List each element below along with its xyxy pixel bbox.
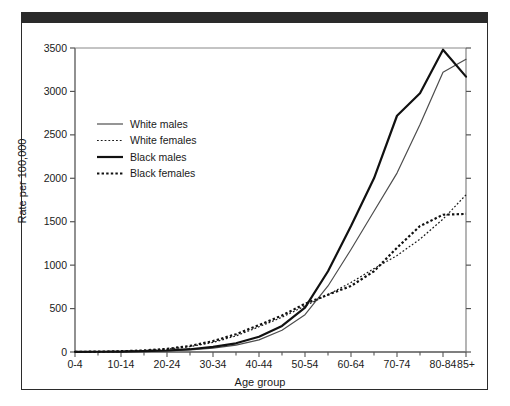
x-axis-label: Age group <box>180 376 340 388</box>
legend-label-white-males: White males <box>130 118 188 130</box>
figure-container: 05001000150020002500300035000-410-1420-2… <box>0 0 510 406</box>
x-tick-label-85+: 85+ <box>457 358 475 370</box>
y-axis-label: Rate per 100,000 <box>16 121 28 241</box>
x-tick-label-60-64: 60-64 <box>338 358 365 370</box>
legend-label-white-females: White females <box>130 134 197 146</box>
y-tick-label-3500: 3500 <box>44 42 68 54</box>
x-tick-label-80-84: 80-84 <box>430 358 457 370</box>
x-tick-label-70-74: 70-74 <box>384 358 411 370</box>
x-tick-label-40-44: 40-44 <box>246 358 273 370</box>
series-line-black-males <box>75 50 466 352</box>
y-tick-label-3000: 3000 <box>44 85 68 97</box>
legend-label-black-males: Black males <box>130 151 187 163</box>
x-tick-label-50-54: 50-54 <box>292 358 319 370</box>
y-tick-label-1000: 1000 <box>44 259 68 271</box>
series-line-white-females <box>75 195 466 352</box>
x-tick-label-30-34: 30-34 <box>200 358 227 370</box>
y-tick-label-2000: 2000 <box>44 172 68 184</box>
series-line-white-males <box>75 59 466 352</box>
y-tick-label-0: 0 <box>61 346 67 358</box>
y-tick-label-1500: 1500 <box>44 215 68 227</box>
legend-label-black-females: Black females <box>130 167 195 179</box>
x-tick-label-0-4: 0-4 <box>67 358 82 370</box>
y-tick-label-2500: 2500 <box>44 128 68 140</box>
y-tick-label-500: 500 <box>49 302 67 314</box>
x-tick-label-20-24: 20-24 <box>154 358 181 370</box>
x-tick-label-10-14: 10-14 <box>108 358 135 370</box>
line-chart: 05001000150020002500300035000-410-1420-2… <box>0 0 510 406</box>
